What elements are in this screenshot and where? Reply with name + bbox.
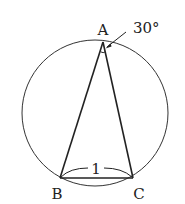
inscribed-triangle-diagram: A 30° B C 1: [0, 0, 185, 204]
angle-arc-a: [101, 52, 106, 53]
side-length-arc-left: [61, 168, 88, 177]
angle-label: 30°: [133, 19, 160, 37]
side-length-label: 1: [91, 160, 101, 178]
vertex-label-b: B: [51, 185, 62, 203]
side-length-arc-right: [104, 168, 132, 177]
vertex-label-a: A: [97, 21, 109, 39]
diagram-stage: A 30° B C 1: [0, 0, 185, 204]
vertex-label-c: C: [133, 185, 144, 203]
side-ac: [103, 42, 133, 178]
leader-arrowhead-icon: [106, 43, 112, 48]
side-ab: [60, 42, 103, 178]
